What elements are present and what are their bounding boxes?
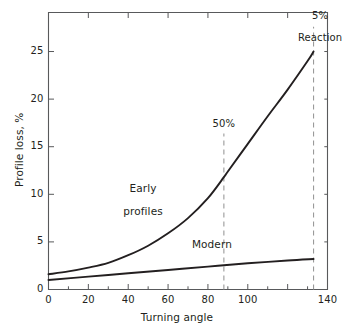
- x-tick-label-20: 20: [68, 294, 108, 305]
- y-tick-label-20: 20: [18, 93, 44, 104]
- x-tick-label-40: 40: [108, 294, 148, 305]
- y-tick-label-25: 25: [18, 45, 44, 56]
- annotation-50-percent: 50%: [198, 118, 250, 129]
- x-tick-label-60: 60: [148, 294, 188, 305]
- y-tick-label-10: 10: [18, 188, 44, 199]
- series-label-modern: Modern: [180, 239, 244, 251]
- y-tick-label-5: 5: [18, 235, 44, 246]
- series-label-early-line1: Early: [130, 182, 157, 194]
- annotation-reaction-word: Reaction: [298, 32, 342, 43]
- annotation-5-percent-reaction: 5% Reaction: [271, 0, 354, 55]
- x-axis-title: Turning angle: [0, 312, 354, 324]
- series-label-early-line2: profiles: [123, 205, 162, 217]
- y-axis-title: Profile loss, %: [14, 113, 26, 187]
- x-tick-label-80: 80: [188, 294, 228, 305]
- series-label-early-profiles: Early profiles: [106, 171, 166, 230]
- x-tick-label-0: 0: [29, 294, 69, 305]
- x-tick-label-100: 100: [228, 294, 268, 305]
- x-tick-label-140: 140: [308, 294, 348, 305]
- profile-loss-chart: 25 20 15 10 5 0 0 20 40 60 80 100 140 Tu…: [0, 0, 354, 334]
- y-tick-label-0: 0: [18, 283, 44, 294]
- annotation-reaction-pct: 5%: [312, 10, 328, 21]
